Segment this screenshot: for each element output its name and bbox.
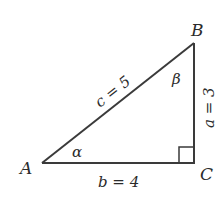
side-label-a: a = 3 (200, 87, 218, 128)
triangle-diagram: A B C α β c = 5 b = 4 a = 3 (0, 0, 223, 206)
angle-label-alpha: α (72, 143, 82, 161)
right-angle-marker (179, 147, 194, 163)
vertex-label-b: B (190, 20, 204, 40)
vertex-label-c: C (200, 164, 213, 184)
side-c-hypotenuse (42, 43, 194, 163)
vertex-label-a: A (18, 158, 32, 178)
angle-label-beta: β (171, 70, 181, 88)
side-label-b: b = 4 (98, 173, 139, 191)
side-label-c: c = 5 (91, 72, 134, 111)
